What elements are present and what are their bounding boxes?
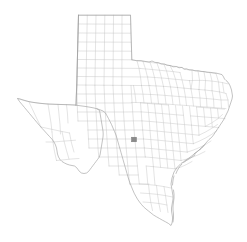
texas-county-map-svg [0, 0, 247, 242]
highlighted-county[interactable] [132, 137, 137, 142]
texas-county-map-figure [0, 0, 247, 242]
